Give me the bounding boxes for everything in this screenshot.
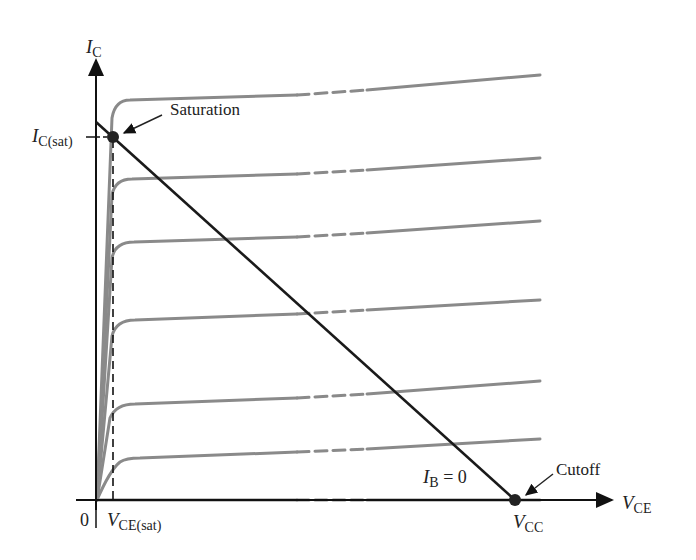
cutoff-arrow	[526, 474, 553, 495]
curve-ib-3	[97, 314, 297, 500]
transistor-characteristics-diagram: IC IC(sat) Saturation Cutoff IB = 0 0 VC…	[0, 0, 696, 560]
icsat-label: IC(sat)	[32, 125, 73, 150]
y-axis-label: IC	[86, 36, 102, 61]
origin-label: 0	[80, 510, 89, 531]
collector-curves	[97, 75, 540, 500]
saturation-point	[107, 131, 119, 143]
vcesat-label: VCE(sat)	[107, 509, 161, 534]
curve-ib-1	[97, 452, 297, 500]
saturation-arrow	[124, 115, 162, 133]
x-axis-label: VCE	[622, 492, 652, 517]
curve-ib-6	[97, 95, 297, 500]
vcc-label: VCC	[513, 511, 543, 536]
saturation-label: Saturation	[170, 100, 240, 120]
dc-load-line	[96, 122, 515, 500]
ib-zero-label: IB = 0	[423, 466, 467, 491]
cutoff-point	[509, 494, 521, 506]
cutoff-label: Cutoff	[556, 460, 600, 480]
curve-ib-2	[97, 398, 297, 500]
curve-ib-5	[97, 174, 297, 500]
